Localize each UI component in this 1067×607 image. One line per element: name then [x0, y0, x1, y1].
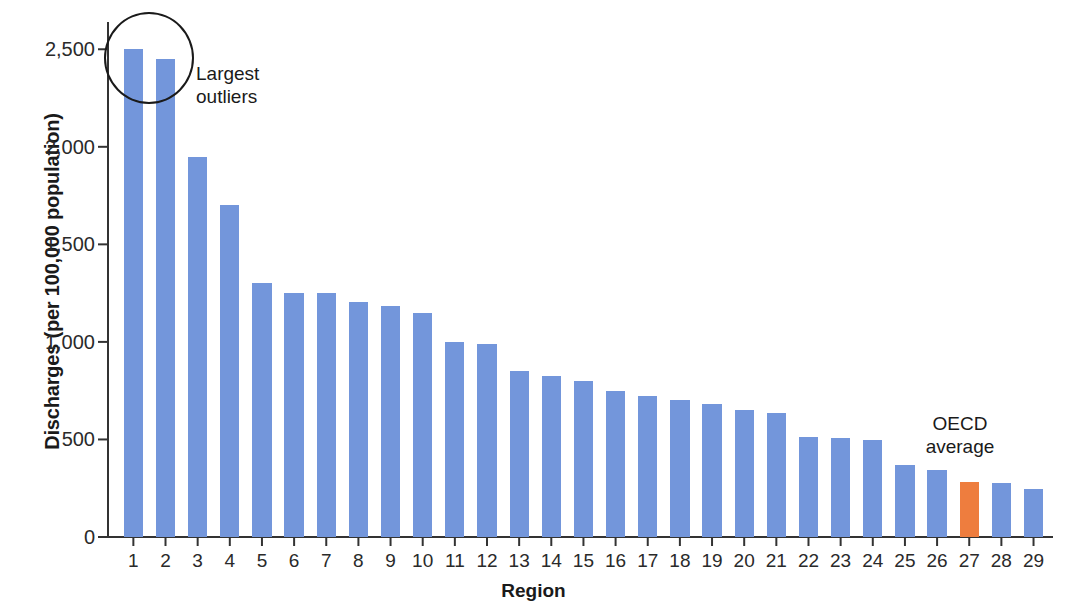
bar-region-6[interactable]	[284, 293, 303, 537]
x-axis-tick-label: 10	[412, 551, 433, 570]
bar-region-8[interactable]	[349, 302, 368, 537]
x-axis-tick-label: 24	[862, 551, 883, 570]
x-axis-tick-label: 27	[959, 551, 980, 570]
bar-region-9[interactable]	[381, 306, 400, 537]
x-axis-tick-label: 1	[128, 551, 139, 570]
bar-region-5[interactable]	[252, 283, 271, 537]
bar-region-3[interactable]	[188, 157, 207, 537]
x-axis-tick-label: 28	[991, 551, 1012, 570]
x-axis-tick-label: 5	[257, 551, 268, 570]
x-axis-tick-label: 6	[289, 551, 300, 570]
x-axis-tick-label: 26	[927, 551, 948, 570]
bar-region-21[interactable]	[767, 413, 786, 537]
x-axis-tick-label: 9	[385, 551, 396, 570]
bar-region-25[interactable]	[895, 465, 914, 537]
bar-region-24[interactable]	[863, 440, 882, 537]
x-axis-tick-label: 23	[830, 551, 851, 570]
bar-region-20[interactable]	[735, 410, 754, 537]
x-axis-tick-label: 29	[1023, 551, 1044, 570]
bar-region-10[interactable]	[413, 313, 432, 537]
x-axis-tick-label: 22	[798, 551, 819, 570]
x-axis-tick-label: 18	[669, 551, 690, 570]
x-axis-tick-label: 11	[445, 551, 465, 570]
oecd-average-line-2: average	[926, 436, 995, 457]
x-axis-tick-label: 12	[476, 551, 497, 570]
y-axis-tick-labels: 05001,0001,5002,0002,500	[0, 20, 95, 540]
bar-region-23[interactable]	[831, 438, 850, 537]
x-axis-tick-label: 8	[353, 551, 364, 570]
bar-region-17[interactable]	[638, 396, 657, 537]
x-axis-tick-label: 4	[225, 551, 236, 570]
bar-region-14[interactable]	[542, 376, 561, 537]
oecd-average-line-1: OECD	[933, 413, 988, 434]
bar-region-29[interactable]	[1024, 489, 1043, 537]
x-axis-tick-label: 13	[509, 551, 530, 570]
bar-region-19[interactable]	[702, 404, 721, 537]
bar-chart-figure: Discharges (per 100,000 population) 0500…	[0, 0, 1067, 607]
bar-region-4[interactable]	[220, 205, 239, 537]
y-axis-tick-label: 0	[5, 527, 95, 547]
bar-region-28[interactable]	[992, 483, 1011, 537]
bar-region-22[interactable]	[799, 437, 818, 537]
oecd-average-annotation: OECDaverage	[905, 412, 1015, 458]
y-axis-tick-label: 500	[5, 429, 95, 449]
x-axis-tick-label: 7	[321, 551, 332, 570]
x-axis-tick-label: 21	[766, 551, 787, 570]
largest-outliers-annotation: Largestoutliers	[196, 62, 306, 108]
bar-region-15[interactable]	[574, 381, 593, 537]
x-axis-tick-label: 2	[160, 551, 171, 570]
x-axis-tick-label: 16	[605, 551, 626, 570]
x-axis-tick-labels: 1234567891011121314151617181920212223242…	[107, 551, 1057, 575]
x-axis-tick-label: 20	[734, 551, 755, 570]
bar-region-11[interactable]	[445, 342, 464, 537]
bar-region-16[interactable]	[606, 391, 625, 537]
bar-region-13[interactable]	[510, 371, 529, 537]
x-axis-tick-label: 15	[573, 551, 594, 570]
largest-outliers-line-1: Largest	[196, 63, 259, 84]
x-axis-tick-label: 25	[894, 551, 915, 570]
x-axis-tick-label: 3	[192, 551, 203, 570]
x-axis-tick-label: 19	[701, 551, 722, 570]
bar-region-2[interactable]	[156, 59, 175, 537]
bar-region-18[interactable]	[670, 400, 689, 537]
x-axis-tick-label: 17	[637, 551, 658, 570]
y-axis-tick-label: 1,000	[5, 332, 95, 352]
bar-region-1[interactable]	[124, 49, 143, 537]
x-axis-tick-label: 14	[541, 551, 562, 570]
y-axis-tick-label: 2,000	[5, 137, 95, 157]
bar-region-12[interactable]	[477, 344, 496, 537]
bar-region-7[interactable]	[317, 293, 336, 537]
bar-region-26[interactable]	[927, 470, 946, 537]
y-axis-tick-label: 2,500	[5, 39, 95, 59]
bar-region-27[interactable]	[960, 482, 979, 537]
largest-outliers-line-2: outliers	[196, 86, 257, 107]
x-axis-title: Region	[0, 580, 1067, 602]
y-axis-tick-label: 1,500	[5, 234, 95, 254]
